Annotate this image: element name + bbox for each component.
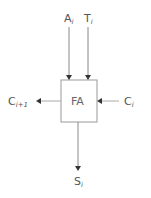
a-arrowhead-icon: [66, 75, 72, 80]
label-t-input: Ti: [84, 13, 93, 26]
label-s-output: Si: [74, 176, 83, 189]
c-in-arrowhead-icon: [97, 98, 102, 104]
c-out-arrowhead-icon: [36, 98, 41, 104]
t-arrowhead-icon: [85, 75, 91, 80]
label-c-out: Ci+1: [8, 96, 28, 109]
s-arrowhead-icon: [75, 166, 81, 171]
full-adder-label: FA: [71, 96, 84, 107]
label-c-in: Ci: [124, 96, 134, 109]
label-a-input: Ai: [64, 13, 73, 26]
